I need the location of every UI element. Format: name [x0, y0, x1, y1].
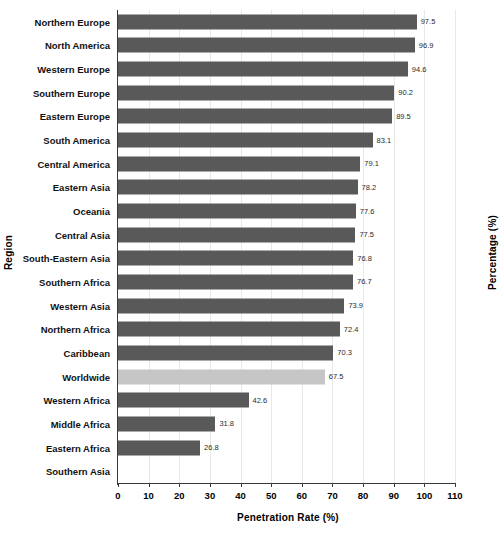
x-axis-tick: [210, 483, 211, 487]
x-axis-tick-label: 50: [256, 490, 286, 501]
y-axis-title-right: Percentage (%): [487, 208, 498, 298]
category-label: Western Africa: [43, 395, 110, 406]
category-label: Eastern Africa: [46, 442, 110, 453]
x-axis-tick-label: 90: [379, 490, 409, 501]
bar: 90.2: [118, 85, 394, 100]
bar-value-label: 77.6: [360, 207, 375, 216]
bar-row: Central Asia77.5: [118, 223, 455, 247]
bar-value-label: 79.1: [364, 159, 379, 168]
bar: 94.6: [118, 62, 408, 77]
x-axis-tick: [149, 483, 150, 487]
category-label: Southern Asia: [46, 466, 110, 477]
category-label: Caribbean: [64, 347, 110, 358]
category-label: Oceania: [73, 206, 110, 217]
category-label: Northern Africa: [41, 324, 110, 335]
bar: 70.3: [118, 345, 333, 360]
bar-value-label: 97.5: [421, 17, 436, 26]
bar: 67.5: [118, 369, 325, 384]
x-axis-tick: [332, 483, 333, 487]
bar-value-label: 89.5: [396, 112, 411, 121]
x-axis-tick-label: 20: [164, 490, 194, 501]
category-label: Worldwide: [62, 371, 110, 382]
bar: 42.6: [118, 393, 249, 408]
x-axis-tick-label: 10: [134, 490, 164, 501]
bar: 83.1: [118, 133, 373, 148]
bar-value-label: 90.2: [398, 88, 413, 97]
bar: 77.5: [118, 227, 355, 242]
x-axis-tick-label: 110: [440, 490, 470, 501]
x-axis-tick: [363, 483, 364, 487]
bar-value-label: 76.7: [357, 277, 372, 286]
bar: 78.2: [118, 180, 358, 195]
x-axis-tick-label: 80: [348, 490, 378, 501]
bar-row: Oceania77.6: [118, 199, 455, 223]
bar-row: North America96.9: [118, 34, 455, 58]
category-label: Northern Europe: [35, 16, 110, 27]
category-label: South America: [43, 135, 110, 146]
bar-value-label: 96.9: [419, 41, 434, 50]
bar-value-label: 76.8: [357, 254, 372, 263]
bar-row: Southern Asia: [118, 459, 455, 483]
x-axis-tick: [302, 483, 303, 487]
x-axis: 0102030405060708090100110: [118, 483, 455, 509]
plot-area: Northern Europe97.5North America96.9West…: [118, 10, 455, 483]
category-label: Eastern Europe: [40, 111, 110, 122]
y-axis-title-left: Region: [3, 223, 14, 283]
x-axis-tick-label: 70: [317, 490, 347, 501]
bar-row: Southern Europe90.2: [118, 81, 455, 105]
bar-row: Worldwide67.5: [118, 365, 455, 389]
x-axis-title: Penetration Rate (%): [118, 512, 458, 523]
bar: 96.9: [118, 38, 415, 53]
bar-value-label: 77.5: [359, 230, 374, 239]
bar: 89.5: [118, 109, 392, 124]
bar-row: Northern Europe97.5: [118, 10, 455, 34]
bar-value-label: 67.5: [329, 372, 344, 381]
bar-row: Eastern Africa26.8: [118, 436, 455, 460]
bar-row: Middle Africa31.8: [118, 412, 455, 436]
bar-row: South-Eastern Asia76.8: [118, 247, 455, 271]
x-axis-tick-label: 40: [226, 490, 256, 501]
bar-row: Central America79.1: [118, 152, 455, 176]
x-axis-tick-label: 30: [195, 490, 225, 501]
bar: 77.6: [118, 204, 356, 219]
category-label: Southern Africa: [39, 276, 110, 287]
bar-value-label: 31.8: [219, 419, 234, 428]
bar-value-label: 94.6: [412, 65, 427, 74]
bar-row: Caribbean70.3: [118, 341, 455, 365]
bar: 72.4: [118, 322, 340, 337]
bar: 31.8: [118, 416, 215, 431]
bar-row: Eastern Asia78.2: [118, 176, 455, 200]
category-label: South-Eastern Asia: [23, 253, 110, 264]
x-axis-tick-label: 0: [103, 490, 133, 501]
bar-row: Western Africa42.6: [118, 388, 455, 412]
bar-value-label: 78.2: [362, 183, 377, 192]
category-label: Central Asia: [55, 229, 110, 240]
bar-row: Western Europe94.6: [118, 57, 455, 81]
bar: 76.7: [118, 274, 353, 289]
gridline: [455, 10, 456, 483]
x-axis-tick: [394, 483, 395, 487]
bar-value-label: 70.3: [337, 348, 352, 357]
bar: 76.8: [118, 251, 353, 266]
bar-row: Southern Africa76.7: [118, 270, 455, 294]
x-axis-tick: [455, 483, 456, 487]
bar-row: South America83.1: [118, 128, 455, 152]
bar-value-label: 26.8: [204, 443, 219, 452]
penetration-rate-bar-chart: Region Percentage (%) Penetration Rate (…: [0, 0, 502, 534]
bar: 79.1: [118, 156, 360, 171]
bar-value-label: 72.4: [344, 325, 359, 334]
category-label: Eastern Asia: [53, 182, 110, 193]
x-axis-tick: [424, 483, 425, 487]
category-label: Middle Africa: [51, 418, 110, 429]
x-axis-tick: [118, 483, 119, 487]
category-label: Central America: [37, 158, 110, 169]
x-axis-tick-label: 60: [287, 490, 317, 501]
x-axis-tick: [179, 483, 180, 487]
bar-row: Northern Africa72.4: [118, 317, 455, 341]
category-label: Western Europe: [37, 64, 110, 75]
category-label: Western Asia: [50, 300, 110, 311]
bar: 97.5: [118, 14, 417, 29]
bar: 73.9: [118, 298, 344, 313]
bar-row: Western Asia73.9: [118, 294, 455, 318]
category-label: Southern Europe: [33, 87, 110, 98]
